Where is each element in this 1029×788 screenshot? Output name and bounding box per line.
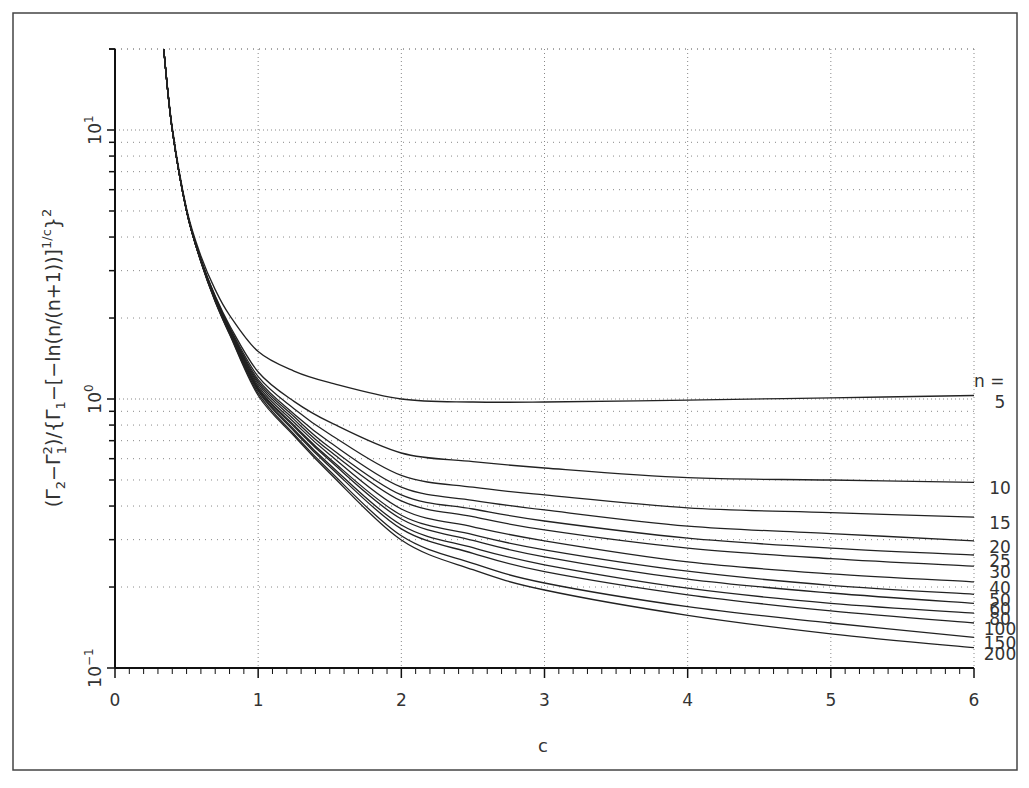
x-tick-label: 0: [110, 690, 121, 710]
x-tick-label: 6: [969, 690, 980, 710]
y-tick-label-text: 100: [82, 384, 105, 413]
chart: 0123456 10−1100101 n = 51015202530405060…: [0, 0, 1029, 788]
series-label-n-15: 15: [989, 513, 1011, 533]
series-line-n-100: [164, 49, 974, 623]
x-tick-label: 2: [396, 690, 407, 710]
series-line-n-60: [164, 49, 974, 603]
series-line-n-40: [164, 49, 974, 582]
x-ticks: 0123456: [110, 668, 980, 710]
series-line-n-25: [164, 49, 974, 555]
y-axis-label: (Γ2−Γ21)/{Γ1−[−ln(n/(n+1))]1/c}2: [39, 209, 69, 507]
x-tick-label: 4: [682, 690, 693, 710]
y-axis-label-text: (Γ2−Γ21)/{Γ1−[−ln(n/(n+1))]1/c}2: [39, 209, 69, 507]
series-line-n-5: [164, 49, 974, 402]
y-tick-label: 101: [82, 115, 105, 144]
series-label-n-5: 5: [995, 392, 1006, 412]
y-ticks: 10−1100101: [82, 49, 115, 688]
x-tick-label: 1: [253, 690, 264, 710]
legend-title: n =: [974, 371, 1004, 391]
y-tick-label: 10−1: [82, 648, 105, 687]
series-label-n-10: 10: [989, 478, 1011, 498]
outer-frame: [13, 13, 1017, 770]
y-tick-label: 100: [82, 384, 105, 413]
x-tick-label: 5: [825, 690, 836, 710]
series-group: [164, 49, 974, 648]
series-labels: n = 5101520253040506080100150200: [974, 371, 1016, 664]
series-line-n-20: [164, 49, 974, 541]
x-axis-label: c: [538, 735, 548, 756]
x-tick-label: 3: [539, 690, 550, 710]
series-line-n-200: [164, 49, 974, 648]
y-tick-label-text: 10−1: [82, 648, 105, 687]
series-line-n-80: [164, 49, 974, 613]
series-line-n-30: [164, 49, 974, 566]
y-tick-label-text: 101: [82, 115, 105, 144]
series-label-n-200: 200: [984, 644, 1016, 664]
series-line-n-15: [164, 49, 974, 517]
